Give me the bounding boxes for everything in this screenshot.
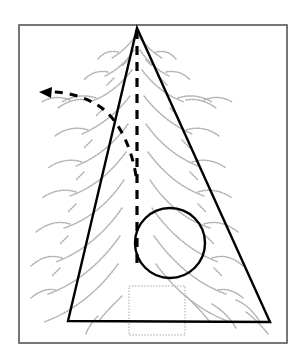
tree-branch — [154, 236, 226, 294]
tree-needle — [107, 78, 114, 85]
tree-branch — [186, 128, 219, 136]
tree-branch — [144, 96, 192, 134]
tree-branch — [98, 296, 122, 322]
tree-needle — [198, 204, 206, 212]
background-conifer-tree — [31, 34, 268, 334]
tree-needle — [84, 140, 92, 148]
tree-branch — [156, 51, 176, 59]
tree-branch — [58, 99, 88, 108]
tree-branch — [236, 300, 260, 322]
tree-needle — [68, 204, 76, 212]
tree-branch — [48, 160, 82, 168]
tree-branch — [64, 180, 124, 228]
tree-branch — [198, 190, 232, 198]
tree-branch — [98, 51, 118, 59]
tree-branch — [86, 316, 98, 334]
tree-needle — [60, 236, 68, 244]
tree-needle — [206, 236, 214, 244]
arc-arrowhead-icon — [39, 87, 52, 98]
tree-needle — [190, 172, 198, 180]
tree-branch — [48, 236, 120, 294]
tree-branch — [150, 180, 210, 228]
tree-needle — [214, 268, 222, 276]
tree-trunk — [129, 286, 185, 335]
tree-branch — [186, 296, 210, 322]
tree-needle — [76, 172, 84, 180]
tree-needle — [52, 268, 60, 276]
geometry-figure — [0, 0, 298, 356]
tree-branch — [31, 289, 56, 298]
diagram-canvas — [0, 0, 298, 356]
tree-branch — [218, 289, 243, 298]
tree-branch — [55, 128, 88, 136]
tree-branch — [186, 99, 216, 108]
sphere-circle-outline — [135, 208, 205, 278]
tree-branch — [42, 190, 76, 198]
